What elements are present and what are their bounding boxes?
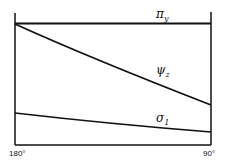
sigma-1-curve	[15, 113, 211, 132]
x-axis-right-label: 90°	[203, 150, 215, 158]
psi-z-label: ψz	[156, 64, 170, 79]
psi-z-curve	[15, 24, 211, 105]
sigma-1-label: σ1	[156, 112, 169, 127]
x-axis-left-label: 180°	[9, 150, 26, 158]
pi-y-label: πy	[156, 8, 168, 23]
diagram-canvas	[0, 0, 229, 161]
